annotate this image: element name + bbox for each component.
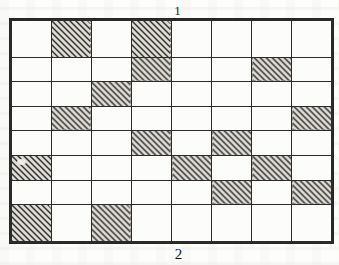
top-axis-label: 1	[0, 1, 339, 18]
lattice-cell-empty	[51, 82, 91, 107]
lattice-cell-empty	[292, 205, 332, 242]
lattice-cell-empty	[212, 20, 252, 57]
lattice-cell-empty	[91, 156, 131, 181]
lattice-cell-empty	[91, 131, 131, 156]
lattice-cell-empty	[131, 82, 171, 107]
bottom-axis-label-text: 2	[175, 246, 183, 263]
lattice-grid-row	[11, 205, 332, 242]
lattice-cell-empty	[11, 180, 51, 205]
lattice-cell-empty	[91, 20, 131, 57]
lattice-cell-empty	[292, 131, 332, 156]
lattice-cell-empty	[212, 106, 252, 131]
bottom-axis-label: 2	[0, 245, 339, 263]
lattice-cell-shaded	[131, 20, 171, 57]
lattice-cell-empty	[212, 57, 252, 82]
lattice-cell-empty	[131, 180, 171, 205]
lattice-cell-shaded	[131, 57, 171, 82]
lattice-cell-shaded	[172, 156, 212, 181]
lattice-cell-empty	[131, 106, 171, 131]
lattice-grid-row	[11, 131, 332, 156]
lattice-grid	[10, 19, 333, 243]
lattice-cell-empty	[172, 106, 212, 131]
lattice-cell-shaded	[252, 57, 292, 82]
top-axis-label-text: 1	[174, 3, 181, 18]
lattice-cell-empty	[172, 82, 212, 107]
lattice-cell-empty	[292, 20, 332, 57]
lattice-cell-empty	[252, 106, 292, 131]
lattice-cell-empty	[252, 82, 292, 107]
lattice-cell-shaded	[51, 106, 91, 131]
lattice-cell-shaded	[11, 205, 51, 242]
lattice-cell-empty	[91, 106, 131, 131]
lattice-cell-shaded	[212, 131, 252, 156]
lattice-grid-row	[11, 180, 332, 205]
lattice-cell-empty	[51, 156, 91, 181]
lattice-grid-row	[11, 106, 332, 131]
lattice-cell-empty	[51, 180, 91, 205]
lattice-cell-empty	[292, 156, 332, 181]
lattice-cell-shaded	[91, 82, 131, 107]
lattice-cell-empty	[252, 20, 292, 57]
lattice-cell-shaded	[212, 180, 252, 205]
lattice-cell-empty	[212, 156, 252, 181]
lattice-cell-empty	[252, 180, 292, 205]
lattice-cell-empty	[172, 57, 212, 82]
lattice-cell-empty	[51, 205, 91, 242]
lattice-cell-empty	[252, 131, 292, 156]
lattice-cell-empty	[292, 82, 332, 107]
lattice-cell-empty	[172, 180, 212, 205]
lattice-cell-empty	[11, 131, 51, 156]
lattice-cell-empty	[11, 82, 51, 107]
lattice-cell-shaded	[51, 20, 91, 57]
lattice-grid-body	[11, 20, 332, 242]
lattice-cell-shaded	[292, 180, 332, 205]
lattice-cell-empty	[91, 180, 131, 205]
lattice-cell-empty	[51, 57, 91, 82]
lattice-cell-empty	[91, 57, 131, 82]
lattice-cell-empty	[131, 205, 171, 242]
lattice-cell-empty	[11, 106, 51, 131]
lattice-cell-shaded	[292, 106, 332, 131]
lattice-cell-empty	[172, 131, 212, 156]
lattice-cell-empty	[172, 20, 212, 57]
lattice-cell-shaded	[131, 131, 171, 156]
lattice-cell-empty	[51, 131, 91, 156]
lattice-grid-row	[11, 82, 332, 107]
lattice-cell-empty	[11, 20, 51, 57]
lattice-cell-empty	[131, 156, 171, 181]
lattice-cell-empty	[172, 205, 212, 242]
lattice-cell-empty	[252, 205, 292, 242]
lattice-cell-empty	[212, 82, 252, 107]
lattice-cell-empty	[212, 205, 252, 242]
lattice-cell-empty	[11, 57, 51, 82]
lattice-cell-shaded	[252, 156, 292, 181]
figure-root: 1 2	[0, 0, 339, 265]
lattice-cell-shaded	[11, 156, 51, 181]
lattice-grid-row	[11, 156, 332, 181]
lattice-cell-shaded	[91, 205, 131, 242]
lattice-grid-row	[11, 20, 332, 57]
lattice-cell-empty	[292, 57, 332, 82]
lattice-grid-container	[10, 19, 333, 243]
lattice-grid-row	[11, 57, 332, 82]
